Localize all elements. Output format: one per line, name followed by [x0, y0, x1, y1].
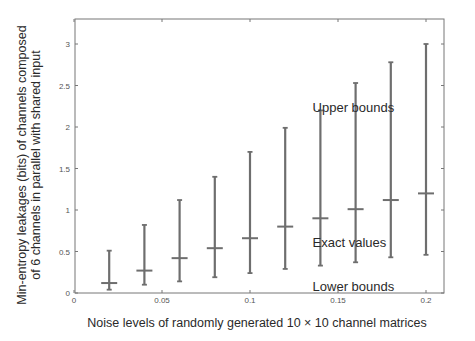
- error-bar: [136, 225, 152, 285]
- x-tick-label: 0.2: [420, 296, 432, 305]
- y-tick-label: 3: [66, 40, 71, 49]
- x-axis-label: Noise levels of randomly generated 10 × …: [87, 316, 426, 330]
- error-bar: [172, 200, 188, 281]
- y-axis-label: Min-entropy leakages (bits) of channels …: [15, 25, 43, 304]
- annotation-label: Exact values: [313, 235, 387, 250]
- x-tick-label: 0.15: [330, 296, 346, 305]
- y-tick-label: 1.5: [59, 165, 71, 174]
- error-bar: [418, 44, 434, 255]
- error-bar: [242, 152, 258, 273]
- y-tick-label: 0: [66, 289, 71, 298]
- x-tick-label: 0.05: [154, 296, 170, 305]
- plot-frame: [75, 19, 444, 293]
- y-tick-label: 1: [66, 206, 71, 215]
- errorbar-chart: 00.050.10.150.200.511.522.53 Upper bound…: [0, 0, 475, 341]
- error-bar: [383, 62, 399, 257]
- y-tick-label: 0.5: [59, 248, 71, 257]
- annotation-label: Upper bounds: [313, 100, 395, 115]
- annotation-label: Lower bounds: [313, 279, 395, 294]
- y-tick-label: 2: [66, 123, 71, 132]
- error-bar: [277, 128, 293, 269]
- x-tick-label: 0.1: [244, 296, 256, 305]
- y-tick-label: 2.5: [59, 82, 71, 91]
- error-bar: [207, 177, 223, 277]
- error-bar: [101, 251, 117, 290]
- annotations: Upper boundsExact valuesLower bounds: [313, 100, 395, 293]
- x-tick-label: 0: [72, 296, 77, 305]
- y-axis-label-line-1: Min-entropy leakages (bits) of channels …: [15, 25, 29, 304]
- error-bars: [101, 44, 434, 290]
- axis-ticks: 00.050.10.150.200.511.522.53: [59, 19, 444, 305]
- plot-box: [75, 19, 444, 293]
- y-axis-label-line-2: of 6 channels in parallel with shared in…: [29, 50, 43, 280]
